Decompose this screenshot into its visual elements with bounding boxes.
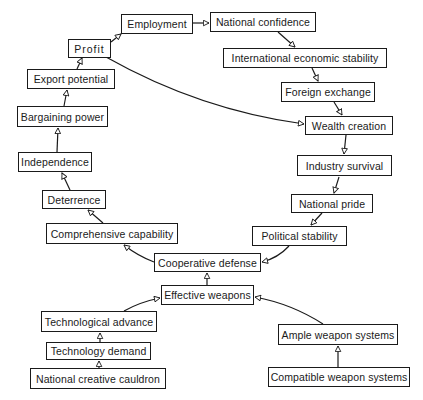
edge-foreign-exchange-to-wealth: [334, 102, 342, 115]
edge-confidence-to-intl: [278, 32, 295, 47]
node-independence: Independence: [18, 152, 92, 172]
node-bargaining-power: Bargaining power: [17, 106, 108, 127]
node-wealth-creation: Wealth creation: [305, 116, 393, 135]
node-deterrence: Deterrence: [42, 190, 106, 209]
node-international-economic-stability: International economic stability: [223, 48, 387, 68]
node-national-creative-cauldron: National creative cauldron: [30, 368, 166, 389]
node-export-potential: Export potential: [27, 69, 115, 89]
edge-tech-advance-to-effective-weapons: [124, 298, 160, 311]
edge-pride-to-political: [311, 213, 322, 225]
edge-export-to-profit: [77, 58, 82, 69]
edge-comprehensive-to-deterrence: [88, 210, 103, 223]
node-employment: Employment: [121, 14, 193, 34]
edge-independence-to-bargaining: [57, 128, 58, 152]
diagram-canvas: Employment National confidence Profit In…: [0, 0, 423, 400]
node-national-confidence: National confidence: [210, 12, 316, 32]
node-profit: Profit: [68, 39, 111, 58]
edge-ample-to-effective-weapons: [255, 297, 323, 324]
node-technology-demand: Technology demand: [46, 342, 151, 360]
node-cooperative-defense: Cooperative defense: [154, 253, 261, 272]
edge-intl-to-foreign-exchange: [312, 68, 318, 81]
node-foreign-exchange: Foreign exchange: [281, 82, 375, 102]
edge-industry-to-pride: [334, 177, 339, 193]
node-industry-survival: Industry survival: [297, 155, 392, 176]
node-political-stability: Political stability: [252, 226, 347, 246]
node-ample-weapon-systems: Ample weapon systems: [278, 324, 398, 345]
edge-bargaining-to-export: [64, 90, 67, 106]
node-national-pride: National pride: [291, 194, 373, 213]
node-effective-weapons: Effective weapons: [161, 285, 254, 305]
edge-political-to-cooperative: [262, 246, 289, 262]
edge-cooperative-to-comprehensive: [124, 245, 154, 262]
edge-profit-to-employment: [111, 34, 121, 42]
node-comprehensive-capability: Comprehensive capability: [46, 223, 178, 244]
edge-deterrence-to-independence: [62, 173, 70, 190]
edge-wealth-to-industry: [344, 135, 346, 154]
node-technological-advance: Technological advance: [41, 311, 157, 332]
node-compatible-weapon-systems: Compatible weapon systems: [268, 367, 410, 387]
